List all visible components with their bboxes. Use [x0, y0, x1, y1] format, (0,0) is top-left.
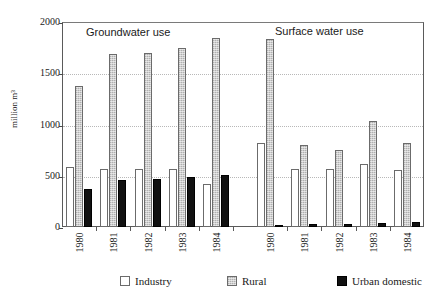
bar-industry-groundwater-use-1983	[169, 169, 177, 227]
x-tick-label: 1983	[176, 223, 187, 263]
legend-swatch-rural-icon	[227, 276, 237, 286]
y-axis-title: million m³	[9, 74, 19, 144]
legend-swatch-industry-icon	[120, 276, 130, 286]
bar-rural-groundwater-use-1982	[144, 53, 152, 227]
bar-chart: million m³ 0500100015002000 Groundwater …	[0, 0, 438, 300]
bar-rural-surface-water-use-1984	[403, 143, 411, 227]
bar-industry-surface-water-use-1983	[360, 164, 368, 227]
bar-urban-groundwater-use-1980	[84, 189, 92, 227]
bar-urban-groundwater-use-1983	[187, 177, 195, 227]
bar-urban-surface-water-use-1980	[275, 225, 283, 227]
bar-industry-surface-water-use-1984	[394, 170, 402, 227]
x-axis-tick-labels: 1980198119821983198419801981198219831984	[62, 229, 424, 271]
bar-rural-surface-water-use-1983	[369, 121, 377, 227]
x-tick-label: 1982	[333, 223, 344, 263]
bars-layer	[62, 22, 424, 227]
x-tick-label: 1980	[74, 223, 85, 263]
legend-label: Rural	[242, 275, 266, 287]
x-tick-label: 1984	[401, 223, 412, 263]
y-tick-label: 0	[26, 222, 60, 232]
legend-item-industry[interactable]: Industry	[120, 275, 172, 287]
bar-rural-groundwater-use-1981	[109, 54, 117, 227]
bar-rural-surface-water-use-1980	[266, 39, 274, 227]
bar-rural-groundwater-use-1983	[178, 48, 186, 227]
chart-legend: IndustryRuralUrban domestic	[62, 275, 424, 295]
x-tick-label: 1981	[108, 223, 119, 263]
x-tick-label: 1984	[210, 223, 221, 263]
legend-item-urban-domestic[interactable]: Urban domestic	[337, 275, 422, 287]
bar-industry-groundwater-use-1981	[100, 169, 108, 227]
legend-swatch-urban-icon	[337, 276, 347, 286]
bar-urban-surface-water-use-1981	[309, 224, 317, 227]
x-tick-label: 1980	[265, 223, 276, 263]
y-axis-tick-labels: 0500100015002000	[20, 0, 60, 300]
bar-rural-surface-water-use-1982	[335, 150, 343, 227]
bar-rural-groundwater-use-1980	[75, 86, 83, 227]
x-tick-label: 1983	[367, 223, 378, 263]
y-tick-label: 2000	[26, 17, 60, 27]
bar-rural-groundwater-use-1984	[212, 38, 220, 227]
y-tick-label: 1000	[26, 120, 60, 130]
y-tick-label: 500	[26, 171, 60, 181]
bar-industry-groundwater-use-1980	[66, 167, 74, 227]
legend-item-rural[interactable]: Rural	[227, 275, 266, 287]
bar-industry-surface-water-use-1981	[291, 169, 299, 227]
bar-urban-surface-water-use-1982	[344, 224, 352, 227]
bar-urban-groundwater-use-1984	[221, 175, 229, 227]
bar-urban-surface-water-use-1983	[378, 223, 386, 227]
x-tick-label: 1981	[299, 223, 310, 263]
bar-urban-groundwater-use-1981	[118, 180, 126, 227]
bar-urban-groundwater-use-1982	[153, 179, 161, 227]
bar-industry-groundwater-use-1982	[135, 169, 143, 227]
bar-urban-surface-water-use-1984	[412, 222, 420, 227]
bar-industry-surface-water-use-1980	[257, 143, 265, 227]
y-tick-label: 1500	[26, 68, 60, 78]
legend-label: Urban domestic	[352, 275, 422, 287]
bar-industry-surface-water-use-1982	[326, 169, 334, 227]
legend-label: Industry	[135, 275, 172, 287]
bar-industry-groundwater-use-1984	[203, 184, 211, 227]
x-tick-label: 1982	[142, 223, 153, 263]
bar-rural-surface-water-use-1981	[300, 145, 308, 228]
